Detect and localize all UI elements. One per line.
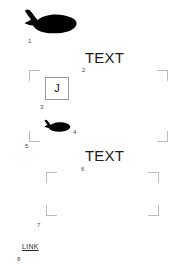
element-number-3: 3 xyxy=(40,104,43,110)
element-number-1: 1 xyxy=(28,38,31,44)
frame-corner-bottom-right-icon xyxy=(157,131,168,142)
text-label-top: TEXT xyxy=(85,50,124,65)
text-label-bottom: TEXT xyxy=(85,148,124,163)
glyph-box-label: J xyxy=(54,83,60,94)
element-number-5: 5 xyxy=(25,143,28,149)
frame-corner-top-left-icon xyxy=(46,172,57,183)
frame-corner-top-right-icon xyxy=(148,172,159,183)
whale-silhouette-small-icon xyxy=(43,119,71,133)
element-number-8: 8 xyxy=(17,256,20,262)
frame-corner-bottom-left-icon xyxy=(29,131,40,142)
link[interactable]: LINK xyxy=(22,243,39,250)
whale-silhouette-icon xyxy=(22,8,78,36)
selection-frame-lower xyxy=(46,172,159,216)
element-number-4: 4 xyxy=(73,129,76,135)
element-number-7: 7 xyxy=(37,222,40,228)
frame-corner-bottom-right-icon xyxy=(148,205,159,216)
glyph-box[interactable]: J xyxy=(45,77,69,100)
frame-corner-top-right-icon xyxy=(157,70,168,81)
frame-corner-bottom-left-icon xyxy=(46,205,57,216)
frame-corner-top-left-icon xyxy=(29,70,40,81)
annotation-canvas: 1 TEXT 2 J 3 4 5 TEXT 6 7 LINK 8 xyxy=(0,0,184,280)
